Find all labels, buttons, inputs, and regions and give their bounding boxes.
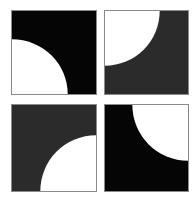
tile-top-left [11,10,97,95]
quarter-circle-top-right-icon [105,105,188,191]
quarter-circle-top-left-icon [105,11,188,94]
tile-bottom-right [104,104,189,192]
tile-bottom-left [11,104,97,192]
quarter-circle-bottom-right-icon [12,105,96,191]
tile-top-right [104,10,189,95]
quarter-circle-bottom-left-icon [12,11,96,94]
